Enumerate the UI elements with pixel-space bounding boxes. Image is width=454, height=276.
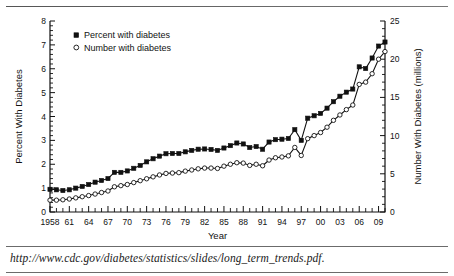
data-point: [196, 147, 200, 151]
data-point: [151, 175, 155, 179]
data-point: [61, 188, 65, 192]
x-axis-tick-label: 00: [316, 217, 326, 227]
series-line: [50, 52, 385, 201]
y2-axis-tick-label: 20: [390, 54, 400, 64]
x-axis-tick-label: 06: [354, 217, 364, 227]
data-point: [54, 188, 58, 192]
data-point: [87, 182, 91, 186]
data-point: [286, 136, 290, 140]
divider-middle: [6, 246, 448, 247]
y-axis-tick-label: 3: [41, 135, 46, 145]
data-point: [80, 184, 84, 188]
data-point: [241, 142, 245, 146]
legend-marker-percent: [74, 33, 79, 38]
data-point: [299, 153, 303, 157]
data-point: [344, 90, 348, 94]
data-point: [61, 198, 65, 202]
y-axis-tick-label: 6: [41, 64, 46, 74]
data-point: [254, 162, 258, 166]
data-point: [80, 195, 84, 199]
data-point: [306, 116, 310, 120]
data-point: [203, 147, 207, 151]
data-point: [228, 144, 232, 148]
data-point: [248, 163, 252, 167]
data-point: [222, 164, 226, 168]
data-point: [119, 183, 123, 187]
data-point: [383, 49, 387, 53]
data-point: [280, 137, 284, 141]
figure: 0123456780510152025195861646770737679828…: [0, 0, 454, 276]
data-point: [183, 150, 187, 154]
data-point: [235, 161, 239, 165]
data-point: [363, 80, 367, 84]
x-axis-tick-label: 91: [258, 217, 268, 227]
data-point: [235, 141, 239, 145]
data-point: [170, 151, 174, 155]
data-point: [261, 147, 265, 151]
y2-axis-tick-label: 25: [390, 16, 400, 26]
data-point: [318, 130, 322, 134]
x-axis-tick-label: 94: [277, 217, 287, 227]
data-point: [228, 162, 232, 166]
data-point: [325, 125, 329, 129]
data-point: [209, 147, 213, 151]
data-point: [125, 182, 129, 186]
data-point: [254, 144, 258, 148]
data-point: [196, 167, 200, 171]
x-axis-title: Year: [208, 230, 227, 241]
y2-axis-title: Number With Diabetes (millions): [412, 48, 423, 184]
data-point: [157, 173, 161, 177]
data-point: [48, 198, 52, 202]
data-point: [177, 151, 181, 155]
y2-axis-tick-label: 0: [390, 207, 395, 217]
data-point: [215, 148, 219, 152]
data-point: [48, 187, 52, 191]
x-axis-tick-label: 76: [161, 217, 171, 227]
y-axis-tick-label: 0: [41, 207, 46, 217]
data-point: [67, 197, 71, 201]
y-axis-tick-label: 8: [41, 16, 46, 26]
data-point: [202, 166, 206, 170]
legend-marker-number: [74, 45, 79, 50]
data-point: [260, 164, 264, 168]
data-point: [93, 192, 97, 196]
data-point: [183, 169, 187, 173]
data-point: [170, 171, 174, 175]
data-point: [125, 169, 129, 173]
data-point: [190, 148, 194, 152]
data-point: [132, 180, 136, 184]
data-point: [112, 170, 116, 174]
y2-axis-tick-label: 5: [390, 169, 395, 179]
data-point: [119, 170, 123, 174]
data-point: [106, 189, 110, 193]
data-point: [305, 136, 309, 140]
data-point: [273, 156, 277, 160]
data-point: [54, 198, 58, 202]
data-point: [106, 176, 110, 180]
data-point: [273, 138, 277, 142]
data-point: [376, 57, 380, 61]
data-point: [112, 185, 116, 189]
data-point: [74, 186, 78, 190]
data-point: [286, 154, 290, 158]
data-point: [312, 114, 316, 118]
data-point: [344, 107, 348, 111]
data-point: [267, 158, 271, 162]
data-point: [338, 113, 342, 117]
diabetes-trend-chart: 0123456780510152025195861646770737679828…: [0, 10, 454, 244]
data-point: [293, 128, 297, 132]
data-point: [145, 160, 149, 164]
data-point: [138, 163, 142, 167]
data-point: [318, 111, 322, 115]
data-point: [376, 44, 380, 48]
x-axis-tick-label: 73: [142, 217, 152, 227]
data-point: [267, 140, 271, 144]
data-point: [209, 166, 213, 170]
data-point: [325, 106, 329, 110]
x-axis-tick-label: 79: [181, 217, 191, 227]
y-axis-tick-label: 2: [41, 159, 46, 169]
data-point: [86, 193, 90, 197]
data-point: [357, 82, 361, 86]
data-point: [93, 180, 97, 184]
data-point: [299, 138, 303, 142]
